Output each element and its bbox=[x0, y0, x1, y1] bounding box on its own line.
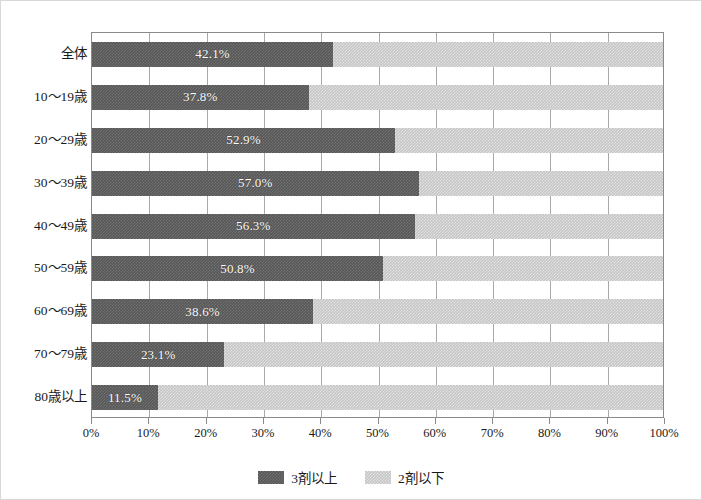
x-tick-mark bbox=[206, 418, 207, 424]
category-axis: 全体10〜19歳20〜29歳30〜39歳40〜49歳50〜59歳60〜69歳70… bbox=[1, 32, 87, 418]
x-tick-mark bbox=[320, 418, 321, 424]
x-tick-label: 80% bbox=[538, 426, 561, 441]
bar-value-label: 50.8% bbox=[220, 261, 255, 277]
legend-label: 3剤以上 bbox=[291, 467, 337, 487]
x-tick-label: 60% bbox=[423, 426, 446, 441]
x-tick-mark bbox=[263, 418, 264, 424]
x-tick-mark bbox=[607, 418, 608, 424]
bar-segment-2-or-fewer bbox=[307, 85, 663, 110]
x-tick-label: 10% bbox=[137, 426, 160, 441]
bar-segment-3-or-more: 50.8% bbox=[92, 256, 383, 281]
plot-area: 42.1%37.8%52.9%57.0%56.3%50.8%38.6%23.1%… bbox=[91, 32, 664, 418]
bar-segment-3-or-more: 56.3% bbox=[92, 214, 415, 239]
x-tick-mark bbox=[492, 418, 493, 424]
dark-gray-swatch-icon bbox=[258, 471, 284, 484]
bar-value-label: 42.1% bbox=[195, 46, 230, 62]
category-label: 60〜69歳 bbox=[1, 298, 87, 323]
bar-row: 23.1% bbox=[92, 342, 663, 367]
bar-value-label: 57.0% bbox=[238, 175, 273, 191]
bar-segment-3-or-more: 23.1% bbox=[92, 342, 224, 367]
category-label: 80歳以上 bbox=[1, 384, 87, 409]
bar-row: 38.6% bbox=[92, 299, 663, 324]
x-tick-label: 0% bbox=[83, 426, 100, 441]
x-tick-label: 90% bbox=[595, 426, 618, 441]
bar-segment-3-or-more: 38.6% bbox=[92, 299, 313, 324]
x-tick-mark bbox=[549, 418, 550, 424]
category-label: 40〜49歳 bbox=[1, 213, 87, 238]
x-tick-mark bbox=[378, 418, 379, 424]
bar-segment-3-or-more: 11.5% bbox=[92, 385, 158, 410]
chart-legend: 3剤以上2剤以下 bbox=[1, 467, 701, 487]
bar-segment-2-or-fewer bbox=[413, 214, 663, 239]
bar-value-label: 52.9% bbox=[226, 132, 261, 148]
bar-row: 11.5% bbox=[92, 385, 663, 410]
x-axis: 0%10%20%30%40%50%60%70%80%90%100% bbox=[91, 418, 664, 444]
x-tick-mark bbox=[91, 418, 92, 424]
category-label: 70〜79歳 bbox=[1, 341, 87, 366]
bar-value-label: 38.6% bbox=[185, 304, 220, 320]
bar-segment-2-or-fewer bbox=[393, 128, 663, 153]
bar-row: 52.9% bbox=[92, 128, 663, 153]
bar-value-label: 23.1% bbox=[141, 347, 176, 363]
x-tick-label: 30% bbox=[251, 426, 274, 441]
bar-row: 50.8% bbox=[92, 256, 663, 281]
bar-row: 56.3% bbox=[92, 214, 663, 239]
bar-segment-2-or-fewer bbox=[222, 342, 663, 367]
bar-segment-3-or-more: 57.0% bbox=[92, 171, 419, 196]
bar-segment-2-or-fewer bbox=[311, 299, 663, 324]
category-label: 50〜59歳 bbox=[1, 255, 87, 280]
bar-segment-2-or-fewer bbox=[156, 385, 663, 410]
bar-value-label: 56.3% bbox=[236, 218, 271, 234]
bar-segment-2-or-fewer bbox=[381, 256, 663, 281]
category-label: 30〜39歳 bbox=[1, 170, 87, 195]
x-tick-label: 20% bbox=[194, 426, 217, 441]
category-label: 20〜29歳 bbox=[1, 127, 87, 152]
x-tick-mark bbox=[664, 418, 665, 424]
bar-row: 57.0% bbox=[92, 171, 663, 196]
x-tick-label: 70% bbox=[481, 426, 504, 441]
bar-row: 42.1% bbox=[92, 42, 663, 67]
category-label: 全体 bbox=[1, 41, 87, 66]
light-gray-swatch-icon bbox=[365, 471, 391, 484]
bar-segment-3-or-more: 42.1% bbox=[92, 42, 333, 67]
legend-item[interactable]: 2剤以下 bbox=[365, 467, 444, 487]
category-label: 10〜19歳 bbox=[1, 84, 87, 109]
x-tick-label: 40% bbox=[309, 426, 332, 441]
x-tick-label: 100% bbox=[649, 426, 678, 441]
legend-item[interactable]: 3剤以上 bbox=[258, 467, 337, 487]
legend-label: 2剤以下 bbox=[398, 467, 444, 487]
bar-segment-3-or-more: 37.8% bbox=[92, 85, 309, 110]
x-tick-mark bbox=[148, 418, 149, 424]
bar-segment-2-or-fewer bbox=[331, 42, 663, 67]
bar-segment-3-or-more: 52.9% bbox=[92, 128, 395, 153]
bar-value-label: 37.8% bbox=[183, 89, 218, 105]
bar-segment-2-or-fewer bbox=[417, 171, 663, 196]
bar-value-label: 11.5% bbox=[108, 390, 142, 406]
x-tick-label: 50% bbox=[366, 426, 389, 441]
bar-row: 37.8% bbox=[92, 85, 663, 110]
x-tick-mark bbox=[435, 418, 436, 424]
chart-figure: 全体10〜19歳20〜29歳30〜39歳40〜49歳50〜59歳60〜69歳70… bbox=[0, 0, 702, 500]
